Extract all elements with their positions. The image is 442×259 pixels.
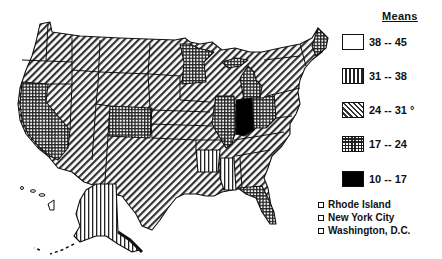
state-maine: [312, 28, 328, 56]
vertical-stripes-swatch-icon: [342, 68, 364, 84]
state-indiana: [236, 98, 254, 136]
alaska-aleutians: [34, 244, 74, 254]
note-label: Rhode Island: [328, 199, 391, 210]
legend-label: 38 -- 45: [369, 36, 407, 48]
blank-swatch-icon: [342, 34, 364, 50]
legend-item-38-45: 38 -- 45: [342, 34, 442, 52]
solid-black-swatch-icon: [342, 171, 364, 187]
state-colorado: [108, 106, 152, 138]
square-bullet-icon: [318, 228, 324, 234]
note-label: New York City: [328, 212, 394, 223]
state-florida: [238, 186, 276, 224]
diagonal-stripes-swatch-icon: [342, 102, 364, 118]
note-new-york-city: New York City: [318, 212, 410, 225]
legend-label: 17 -- 24: [369, 138, 407, 150]
note-washington-dc: Washington, D.C.: [318, 225, 410, 238]
notes: Rhode Island New York City Washington, D…: [318, 199, 410, 238]
square-bullet-icon: [318, 215, 324, 221]
state-mississippi: [220, 158, 236, 190]
legend-label: 10 -- 17: [369, 173, 407, 185]
note-rhode-island: Rhode Island: [318, 199, 410, 212]
state-hawaii: [21, 187, 55, 211]
legend-item-17-24: 17 -- 24: [342, 136, 442, 154]
legend-title: Means: [382, 10, 418, 22]
square-bullet-icon: [318, 202, 324, 208]
legend-item-24-31: 24 -- 31 °: [342, 102, 442, 120]
note-label: Washington, D.C.: [328, 225, 410, 236]
grid-swatch-icon: [342, 136, 364, 152]
state-arkansas: [196, 150, 220, 172]
legend-label: 24 -- 31 °: [369, 104, 414, 116]
legend-item-31-38: 31 -- 38: [342, 68, 442, 86]
legend-item-10-17: 10 -- 17: [342, 171, 442, 189]
legend-label: 31 -- 38: [369, 70, 407, 82]
